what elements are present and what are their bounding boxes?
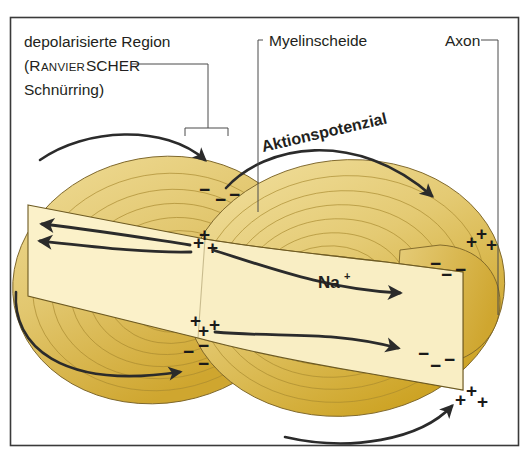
plus-sign: + — [486, 234, 497, 255]
label-sodium-element: Na — [318, 273, 340, 292]
plus-sign: + — [466, 380, 477, 401]
label-depolarized-line2: (R ANVIER SCHER — [24, 57, 140, 74]
label-depolarized-rest: SCHER — [86, 57, 140, 74]
label-depolarized-smallcaps: ANVIER — [41, 61, 85, 73]
figure-root: − − − + + + + + + − − − + + + − — [0, 0, 529, 469]
minus-sign: − — [215, 189, 226, 210]
label-depolarized-paren-r: (R — [24, 57, 40, 74]
label-depolarized-line1: depolarisierte Region — [24, 33, 170, 50]
plus-sign: + — [455, 389, 466, 410]
minus-sign: − — [183, 341, 194, 362]
minus-sign: − — [198, 353, 209, 374]
label-action-potential: Aktionspotenzial — [260, 110, 389, 155]
minus-sign: − — [199, 179, 210, 200]
minus-sign: − — [441, 264, 452, 285]
minus-sign: − — [229, 184, 240, 205]
minus-sign: − — [430, 355, 441, 376]
label-depolarized-line3: Schnürring) — [24, 81, 104, 98]
plus-sign: + — [477, 391, 488, 412]
leader-depolarized-bracket — [132, 64, 228, 136]
minus-sign: − — [444, 349, 455, 370]
label-axon: Axon — [445, 32, 480, 49]
minus-sign: − — [430, 253, 441, 274]
label-sodium-charge: + — [344, 270, 350, 282]
minus-sign: − — [455, 259, 466, 280]
minus-sign: − — [418, 343, 429, 364]
label-myelin-sheath: Myelinscheide — [269, 32, 367, 49]
neuron-saltatory-conduction-diagram: − − − + + + + + + − − − + + + − — [0, 0, 529, 469]
plus-sign: + — [207, 237, 218, 258]
